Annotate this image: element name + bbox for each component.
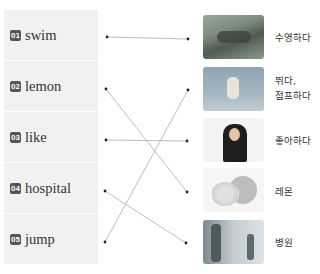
jumper-shape	[227, 77, 239, 99]
connection-swim	[107, 37, 188, 39]
right-dot-2	[187, 89, 190, 92]
swimming-photo	[203, 15, 264, 59]
right-dot-1	[187, 38, 190, 41]
matching-lines	[0, 0, 320, 274]
right-dot-4	[186, 191, 189, 194]
meaning-5: 병원	[275, 235, 293, 250]
meaning-3: 좋아하다	[275, 133, 311, 148]
meaning-text: 좋아하다	[275, 135, 311, 146]
meaning-1: 수영하다	[275, 30, 311, 45]
meaning-text: 병원	[275, 237, 293, 248]
left-dot-1	[106, 36, 109, 39]
face-shape	[229, 128, 240, 141]
hospital-photo	[203, 220, 264, 264]
connection-like	[106, 140, 187, 141]
meaning-text-line1: 뛰다,	[275, 73, 311, 88]
left-dot-4	[104, 190, 107, 193]
left-dot-3	[105, 139, 108, 142]
meaning-text: 수영하다	[275, 32, 311, 43]
thumbs-up-woman-photo	[203, 118, 264, 162]
left-dot-2	[105, 88, 108, 91]
lemon-photo	[203, 168, 264, 212]
meaning-2: 뛰다, 점프하다	[275, 73, 311, 103]
doctor-shape	[211, 224, 221, 262]
connection-hospital	[105, 191, 186, 243]
connection-jump	[105, 90, 188, 242]
left-dot-5	[104, 241, 107, 244]
meaning-text: 레몬	[275, 186, 293, 197]
lemon-slice-shape	[211, 182, 239, 206]
jumping-photo	[203, 67, 264, 111]
meaning-4: 레몬	[275, 184, 293, 199]
right-dot-5	[185, 242, 188, 245]
right-dot-3	[186, 140, 189, 143]
nurse-shape	[247, 234, 254, 260]
meaning-text-line2: 점프하다	[275, 88, 311, 103]
swimmer-shape	[217, 31, 251, 43]
